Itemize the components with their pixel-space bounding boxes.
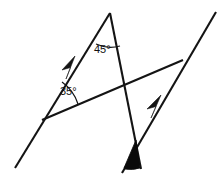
parallel-arrow-icon-lower — [147, 95, 161, 118]
angle-label-35: 35° — [60, 85, 77, 97]
angle-label-45: 45° — [94, 43, 111, 55]
geometry-figure: 45° 35° — [0, 0, 224, 176]
parallel-arrow-icon-upper — [62, 56, 75, 79]
geometry-canvas: 45° 35° — [0, 0, 224, 176]
